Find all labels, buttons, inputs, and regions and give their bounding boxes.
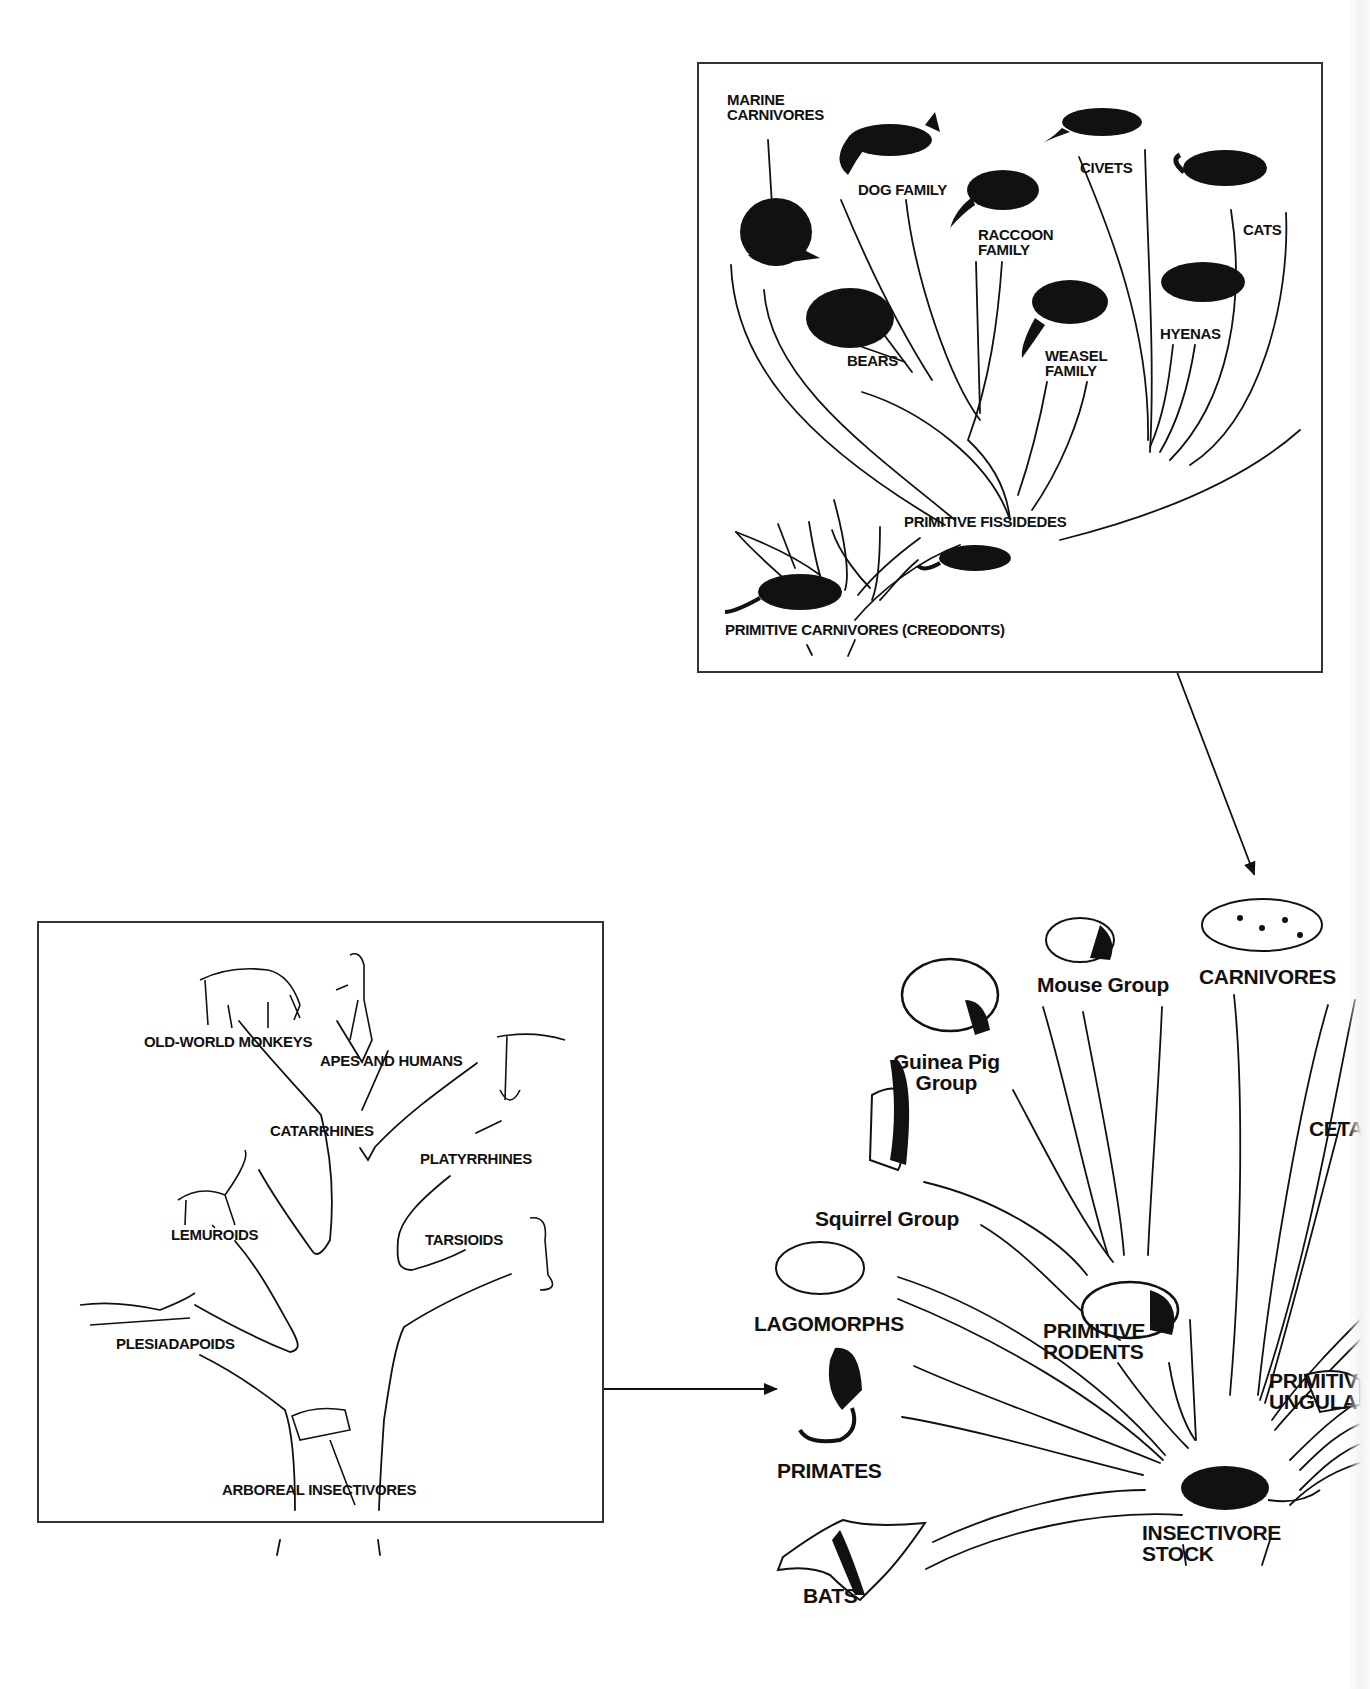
label-old-world-monkeys: OLD-WORLD MONKEYS [144, 1034, 312, 1049]
label-arboreal-insectivores: ARBOREAL INSECTIVORES [222, 1482, 416, 1497]
monkey-icon [829, 1348, 862, 1410]
label-primitive-carnivores: PRIMITIVE CARNIVORES (CREODONTS) [725, 622, 1005, 637]
label-mouse-group: Mouse Group [1037, 974, 1169, 995]
label-platyrrhines: PLATYRRHINES [420, 1151, 532, 1166]
label-squirrel-group: Squirrel Group [815, 1208, 959, 1229]
diagram-stage: MARINE CARNIVORES DOG FAMILY CIVETS RACC… [0, 0, 1370, 1689]
label-dog-family: DOG FAMILY [858, 182, 947, 197]
label-raccoon-family: RACCOON FAMILY [978, 227, 1053, 257]
label-primates: PRIMATES [777, 1460, 882, 1481]
label-insectivore-stock: INSECTIVORE STOCK [1142, 1522, 1281, 1564]
label-weasel-family: WEASEL FAMILY [1045, 348, 1107, 378]
label-guinea-pig-group: Guinea Pig Group [893, 1051, 1000, 1093]
label-primitive-rodents: PRIMITIVE RODENTS [1043, 1320, 1145, 1362]
label-apes-and-humans: APES AND HUMANS [320, 1053, 462, 1068]
label-tarsioids: TARSIOIDS [425, 1232, 503, 1247]
label-catarrhines: CATARRHINES [270, 1123, 374, 1138]
label-plesiadapoids: PLESIADAPOIDS [116, 1336, 235, 1351]
carnivore-inset-box [697, 62, 1323, 673]
label-bears: BEARS [847, 353, 898, 368]
label-bats: BATS [803, 1585, 857, 1606]
label-marine-carnivores: MARINE CARNIVORES [727, 92, 824, 122]
label-lemuroids: LEMUROIDS [171, 1227, 258, 1242]
arrow-carnivore-box-to-carnivores [1177, 672, 1254, 874]
label-hyenas: HYENAS [1160, 326, 1221, 341]
rabbit-icon [776, 1242, 864, 1294]
label-civets: CIVETS [1080, 160, 1132, 175]
label-cats: CATS [1243, 222, 1282, 237]
label-lagomorphs: LAGOMORPHS [754, 1313, 904, 1334]
primate-inset-box [37, 921, 604, 1523]
shrew-icon [1181, 1466, 1269, 1510]
label-primitive-ungulates: PRIMITIV UNGULA [1269, 1370, 1358, 1412]
label-primitive-fissidedes: PRIMITIVE FISSIDEDES [904, 514, 1066, 529]
page-edge-fade [1348, 0, 1370, 1689]
label-carnivores: CARNIVORES [1199, 966, 1336, 987]
